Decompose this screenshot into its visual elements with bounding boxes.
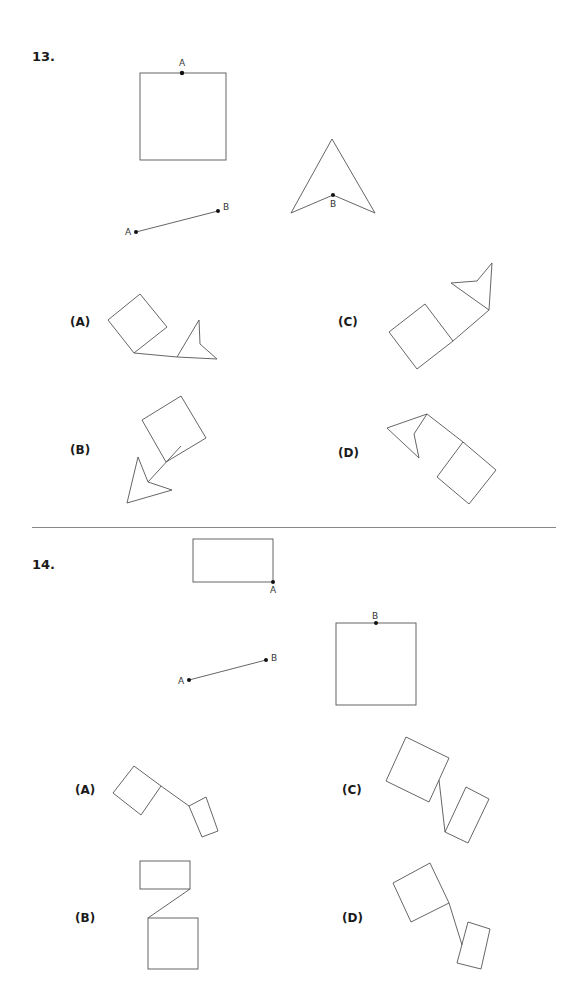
- q13-given-arrowhead: [291, 139, 375, 213]
- q13-option-c-figure[interactable]: [389, 263, 492, 369]
- q14-given-segment: [187, 658, 268, 682]
- q14-option-a-figure[interactable]: [113, 766, 218, 837]
- q13-given-square: [140, 71, 226, 160]
- q13-option-d-figure[interactable]: [387, 414, 496, 504]
- q14-given-square: [336, 621, 416, 705]
- q14-option-d-figure[interactable]: [393, 863, 490, 969]
- q13-given-segment: [134, 209, 220, 234]
- geometry-figures: [0, 0, 588, 1008]
- q13-option-b-figure[interactable]: [127, 396, 206, 503]
- q14-given-rectangle: [193, 539, 275, 584]
- q13-option-a-figure[interactable]: [108, 294, 217, 359]
- q14-option-c-figure[interactable]: [386, 737, 489, 843]
- q14-option-b-figure[interactable]: [140, 861, 198, 969]
